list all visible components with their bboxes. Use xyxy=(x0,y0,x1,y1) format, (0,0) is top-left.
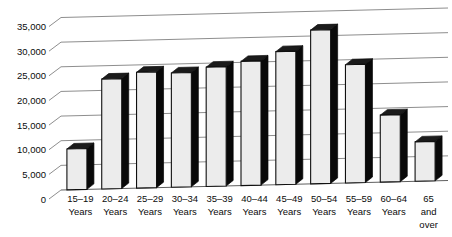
bar-11 xyxy=(415,136,442,181)
y-axis-label-15,000: 15,000 xyxy=(17,120,46,131)
chart-canvas: 05,00010,00015,00020,00025,00030,00035,0… xyxy=(0,0,452,237)
x-axis-label-3: 25–29 xyxy=(137,193,163,204)
x-axis-label-6: 40–44 xyxy=(241,193,267,204)
y-tick-connector xyxy=(49,67,61,76)
bar-side-face xyxy=(365,59,372,183)
y-axis-tick-connectors xyxy=(49,18,61,200)
x-axis-label-7: 45–49 xyxy=(276,193,302,204)
y-axis-label-0: 0 xyxy=(41,194,46,205)
y-tick-connector xyxy=(49,141,61,150)
bar-1 xyxy=(67,143,94,190)
bar-side-face xyxy=(122,73,129,188)
bar-2 xyxy=(102,73,129,189)
bar-front-face xyxy=(137,72,157,188)
gridline-30,000 xyxy=(61,33,448,43)
y-tick-connector xyxy=(49,18,61,27)
y-axis-tick-labels: 05,00010,00015,00020,00025,00030,00035,0… xyxy=(17,21,46,205)
bar-front-face xyxy=(415,141,435,181)
bar-6 xyxy=(241,55,268,185)
bar-chart: 05,00010,00015,00020,00025,00030,00035,0… xyxy=(0,0,452,237)
bar-front-face xyxy=(311,30,331,184)
bar-5 xyxy=(206,61,233,186)
bar-side-face xyxy=(296,46,303,185)
y-axis-label-35,000: 35,000 xyxy=(17,21,46,32)
x-axis-label-6: Years xyxy=(243,206,267,217)
bar-side-face xyxy=(226,61,233,186)
bar-4 xyxy=(171,67,198,187)
bar-side-face xyxy=(435,136,442,181)
y-tick-connector xyxy=(49,91,61,100)
y-axis-label-25,000: 25,000 xyxy=(17,70,46,81)
bar-side-face xyxy=(191,67,198,187)
y-tick-connector xyxy=(49,116,61,125)
bar-10 xyxy=(380,109,407,182)
bar-side-face xyxy=(400,109,407,182)
bar-front-face xyxy=(67,148,87,189)
x-axis-label-10: Years xyxy=(382,206,406,217)
bar-9 xyxy=(345,59,372,183)
bar-7 xyxy=(276,46,303,185)
y-tick-connector xyxy=(49,190,61,199)
x-axis-label-11: 65 xyxy=(423,193,434,204)
y-axis-label-30,000: 30,000 xyxy=(17,46,46,57)
x-axis-label-8: 50–54 xyxy=(311,193,337,204)
bar-front-face xyxy=(102,79,122,189)
bar-front-face xyxy=(380,115,400,183)
x-axis-label-7: Years xyxy=(277,206,301,217)
bar-side-face xyxy=(261,55,268,185)
bar-side-face xyxy=(331,24,338,183)
x-axis-label-9: 55–59 xyxy=(346,193,372,204)
x-axis-label-8: Years xyxy=(312,206,336,217)
x-axis-label-11: and xyxy=(421,206,437,217)
x-axis-label-1: 15–19 xyxy=(67,193,93,204)
bar-front-face xyxy=(206,67,226,187)
y-axis-label-5,000: 5,000 xyxy=(22,169,46,180)
x-axis-label-5: Years xyxy=(208,206,232,217)
bar-front-face xyxy=(345,64,365,183)
bar-side-face xyxy=(157,66,164,187)
bar-3 xyxy=(137,66,164,188)
y-axis-label-20,000: 20,000 xyxy=(17,95,46,106)
x-axis-label-2: Years xyxy=(103,206,127,217)
x-axis-tick-labels: 15–19Years20–24Years25–29Years30–34Years… xyxy=(67,193,438,230)
x-axis-label-10: 60–64 xyxy=(381,193,407,204)
x-axis-label-4: Years xyxy=(173,206,197,217)
bar-side-face xyxy=(87,143,94,189)
bar-front-face xyxy=(241,61,261,186)
x-axis-label-11: over xyxy=(419,219,437,230)
y-tick-connector xyxy=(49,42,61,51)
bar-front-face xyxy=(276,51,296,185)
gridline-35,000 xyxy=(61,8,448,18)
bar-front-face xyxy=(171,72,191,187)
x-axis-label-9: Years xyxy=(347,206,371,217)
x-axis-label-1: Years xyxy=(68,206,92,217)
x-axis-label-3: Years xyxy=(138,206,162,217)
x-axis-label-5: 35–39 xyxy=(206,193,232,204)
bar-8 xyxy=(311,24,338,184)
y-axis-label-10,000: 10,000 xyxy=(17,144,46,155)
x-axis-label-2: 20–24 xyxy=(102,193,128,204)
bars xyxy=(67,24,442,190)
y-tick-connector xyxy=(49,165,61,174)
x-axis-label-4: 30–34 xyxy=(172,193,198,204)
